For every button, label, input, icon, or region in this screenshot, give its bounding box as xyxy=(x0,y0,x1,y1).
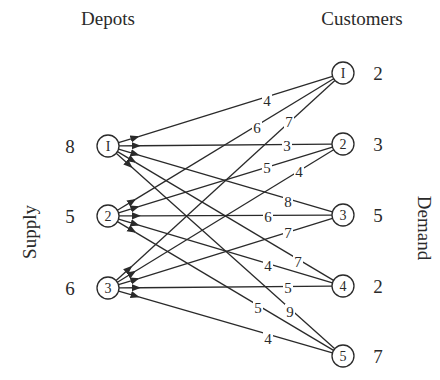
customers-heading: Customers xyxy=(321,8,402,29)
arrow-icon xyxy=(119,291,139,297)
supply-value: 6 xyxy=(65,278,75,299)
edge-cost-label: 7 xyxy=(283,225,293,241)
depot-node-3: 36 xyxy=(65,277,119,299)
customer-node-5: 57 xyxy=(332,345,383,367)
svg-text:I: I xyxy=(341,66,346,81)
edge-cost-label: 6 xyxy=(252,120,262,136)
svg-text:5: 5 xyxy=(284,280,292,296)
demand-axis-label: Demand xyxy=(414,196,435,261)
supply-value: 5 xyxy=(65,206,75,227)
edge-line xyxy=(132,167,335,348)
svg-text:6: 6 xyxy=(253,120,261,136)
svg-text:7: 7 xyxy=(284,225,292,241)
demand-value: 3 xyxy=(373,134,383,155)
edge-cost-label: 6 xyxy=(263,209,273,225)
svg-text:7: 7 xyxy=(285,114,293,130)
svg-text:6: 6 xyxy=(264,209,272,225)
arrow-icon xyxy=(119,137,139,143)
edge-cost-label: 4 xyxy=(262,93,272,109)
edge-cost-label: 3 xyxy=(282,138,292,154)
edge-line xyxy=(140,144,332,146)
edge-cost-label: 7 xyxy=(284,114,294,130)
edge-cost-label: 5 xyxy=(283,280,293,296)
svg-text:5: 5 xyxy=(263,160,271,176)
edge-cost-label: 5 xyxy=(253,300,263,316)
svg-text:2: 2 xyxy=(340,137,347,152)
edge-depot3-customer5 xyxy=(119,291,333,353)
edge-cost-label: 9 xyxy=(285,304,295,320)
edge-line xyxy=(139,218,333,278)
depot-node-1: I8 xyxy=(65,135,119,157)
edge-depot1-customer1 xyxy=(119,76,333,142)
edge-label-layer: 438796564574754 xyxy=(252,93,304,347)
svg-text:5: 5 xyxy=(340,349,347,364)
customer-node-2: 23 xyxy=(332,133,383,155)
edge-cost-label: 4 xyxy=(294,164,304,180)
svg-text:3: 3 xyxy=(340,208,347,223)
svg-text:4: 4 xyxy=(295,164,303,180)
svg-text:9: 9 xyxy=(286,304,294,320)
supply-axis-label: Supply xyxy=(19,205,40,259)
edge-cost-label: 7 xyxy=(293,254,303,270)
demand-value: 2 xyxy=(373,63,383,84)
demand-value: 5 xyxy=(373,205,383,226)
edge-line xyxy=(135,79,333,200)
edge-line xyxy=(140,286,332,288)
svg-text:4: 4 xyxy=(264,331,272,347)
edge-layer xyxy=(116,76,335,353)
edge-line xyxy=(135,162,333,280)
edge-cost-label: 8 xyxy=(283,194,293,210)
customer-node-1: I2 xyxy=(332,62,383,84)
svg-text:8: 8 xyxy=(284,194,292,210)
edge-line xyxy=(139,76,333,136)
svg-text:4: 4 xyxy=(340,279,347,294)
svg-text:7: 7 xyxy=(294,254,302,270)
customer-node-4: 42 xyxy=(332,275,383,297)
depot-node-2: 25 xyxy=(65,205,119,227)
edge-line xyxy=(132,80,335,266)
edge-line xyxy=(139,155,333,212)
edge-depot3-customer4 xyxy=(119,286,332,288)
depots-heading: Depots xyxy=(81,8,135,29)
edge-line xyxy=(140,215,332,216)
transportation-network-diagram: Depots Customers Supply Demand 438796564… xyxy=(0,0,440,380)
svg-text:5: 5 xyxy=(254,300,262,316)
edge-line xyxy=(139,297,333,353)
customer-node-3: 35 xyxy=(332,204,383,226)
edge-cost-label: 4 xyxy=(263,331,273,347)
svg-text:2: 2 xyxy=(105,209,112,224)
svg-text:3: 3 xyxy=(105,281,112,296)
svg-text:3: 3 xyxy=(283,138,291,154)
demand-value: 2 xyxy=(373,276,383,297)
demand-value: 7 xyxy=(373,346,383,367)
supply-value: 8 xyxy=(65,136,75,157)
edge-line xyxy=(135,232,333,350)
edge-cost-label: 5 xyxy=(262,160,272,176)
edge-cost-label: 4 xyxy=(263,258,273,274)
svg-text:I: I xyxy=(106,139,111,154)
svg-text:4: 4 xyxy=(263,93,271,109)
svg-text:4: 4 xyxy=(264,258,272,274)
